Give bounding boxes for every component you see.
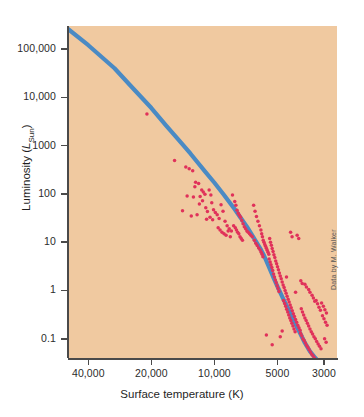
star-point: [198, 202, 202, 206]
star-point: [295, 321, 299, 325]
y-axis-tick: [61, 241, 68, 243]
star-point: [293, 330, 297, 334]
star-point: [237, 232, 241, 236]
star-point: [280, 280, 284, 284]
x-axis-tick-label: 40,000: [72, 367, 105, 379]
star-point: [284, 291, 288, 295]
x-axis-tick-label: 3000: [312, 367, 336, 379]
star-point: [317, 305, 321, 309]
star-point: [270, 244, 274, 248]
y-axis-tick: [61, 48, 68, 50]
star-point: [270, 247, 274, 251]
x-axis-tick-label: 10,000: [198, 367, 231, 379]
star-point: [272, 272, 276, 276]
star-point: [193, 185, 197, 189]
star-point: [316, 302, 320, 306]
star-point: [279, 335, 283, 339]
star-point: [253, 238, 257, 242]
star-point: [226, 229, 230, 233]
star-point: [289, 306, 293, 310]
star-point: [308, 290, 312, 294]
star-point: [321, 314, 325, 318]
star-point: [290, 235, 294, 239]
star-point: [184, 165, 188, 169]
star-point: [279, 277, 283, 281]
star-point: [209, 193, 213, 197]
star-point: [206, 210, 210, 214]
star-point: [270, 266, 274, 270]
y-axis-line: [67, 26, 69, 358]
star-point: [293, 315, 297, 319]
star-point: [269, 240, 273, 244]
star-point: [300, 282, 304, 286]
star-point: [234, 204, 238, 208]
star-point: [207, 188, 211, 192]
star-data-points: [145, 112, 329, 358]
star-point: [223, 220, 227, 224]
star-point: [261, 235, 265, 239]
y-axis-tick-label: 1: [50, 283, 56, 295]
star-point: [291, 324, 295, 328]
star-point: [255, 215, 259, 219]
star-point: [240, 219, 244, 223]
star-point: [173, 159, 177, 163]
star-point: [300, 307, 304, 311]
star-point: [258, 224, 262, 228]
star-point: [229, 235, 233, 239]
star-point: [305, 285, 309, 289]
star-point: [145, 112, 149, 116]
star-point: [323, 337, 327, 341]
x-axis-tick-label: 20,000: [135, 367, 168, 379]
y-axis-tick-label: 100: [38, 187, 56, 199]
star-point: [219, 203, 223, 207]
star-point: [259, 228, 263, 232]
star-point: [319, 347, 323, 351]
star-point: [221, 209, 225, 213]
star-point: [195, 213, 199, 217]
star-point: [277, 268, 281, 272]
y-axis-tick-label: 0.1: [41, 332, 56, 344]
credit-text: Data by M. Walker: [330, 229, 337, 290]
main-sequence-line: [68, 29, 320, 358]
y-axis-title-italic: L: [20, 142, 32, 148]
star-point: [324, 340, 328, 344]
y-axis-tick-label: 1000: [32, 139, 56, 151]
star-point: [256, 220, 260, 224]
star-point: [261, 255, 265, 258]
star-point: [285, 275, 289, 279]
star-point: [185, 194, 189, 198]
star-point: [210, 201, 214, 205]
star-point: [260, 232, 264, 236]
x-axis-tick: [214, 358, 216, 365]
y-axis-tick-label: 10: [44, 235, 56, 247]
star-point: [233, 200, 237, 204]
star-point: [322, 317, 326, 321]
star-point: [313, 299, 317, 303]
y-axis-title-subscript: Sun: [27, 128, 36, 142]
star-point: [274, 281, 278, 285]
star-point: [298, 329, 302, 333]
main-sequence-path: [68, 29, 320, 358]
star-point: [324, 321, 328, 325]
star-point: [270, 343, 274, 347]
plot-area: [68, 26, 337, 358]
star-point: [230, 229, 234, 233]
star-point: [181, 209, 185, 213]
star-point: [268, 237, 272, 241]
star-point: [217, 217, 221, 221]
x-axis-line: [68, 358, 338, 360]
star-point: [231, 193, 235, 197]
star-point: [252, 204, 256, 208]
star-point: [211, 218, 215, 222]
star-point: [289, 231, 293, 235]
star-point: [307, 324, 311, 328]
star-point: [205, 217, 209, 221]
y-axis-tick: [61, 290, 68, 292]
star-point: [275, 262, 279, 266]
star-point: [191, 169, 195, 173]
y-axis-tick-label: 100,000: [17, 42, 56, 54]
star-point: [276, 287, 280, 291]
y-axis-tick: [61, 97, 68, 99]
star-point: [190, 214, 194, 218]
star-point: [197, 182, 201, 186]
